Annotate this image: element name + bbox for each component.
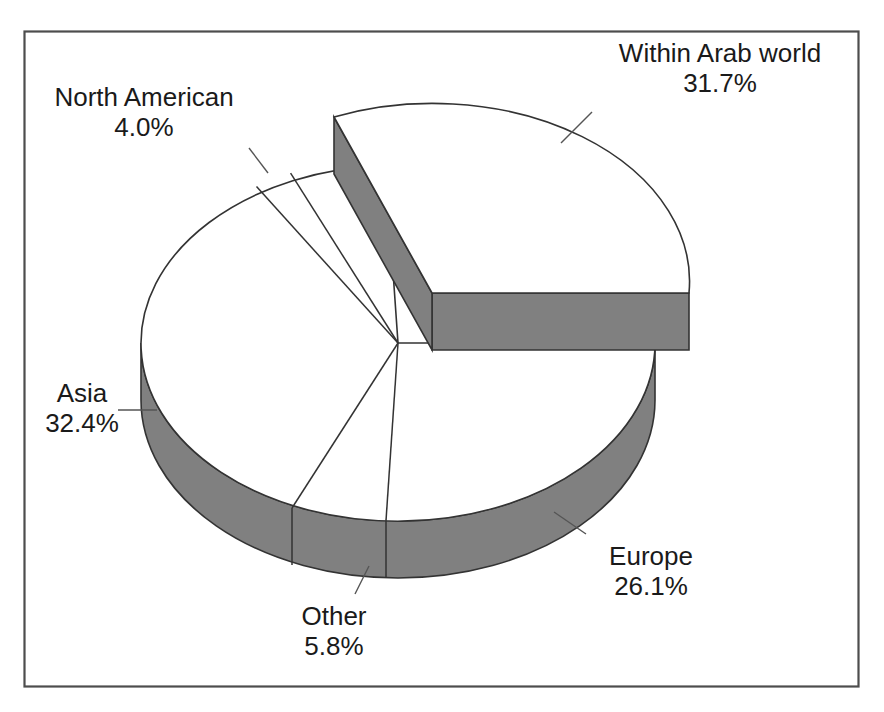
slice-label-other: Other 5.8% bbox=[272, 601, 396, 661]
slice-label-europe-name: Europe bbox=[582, 541, 720, 571]
slice-label-north-american: North American 4.0% bbox=[26, 82, 262, 142]
slice-label-north-american-value: 4.0% bbox=[26, 112, 262, 142]
slice-label-within-arab-world: Within Arab world 31.7% bbox=[586, 38, 854, 98]
slice-label-europe-value: 26.1% bbox=[582, 571, 720, 601]
slice-label-asia: Asia 32.4% bbox=[20, 378, 144, 438]
slice-label-asia-name: Asia bbox=[20, 378, 144, 408]
slice-label-within-arab-world-name: Within Arab world bbox=[586, 38, 854, 68]
pie-chart-figure: Within Arab world 31.7% North American 4… bbox=[0, 0, 884, 712]
slice-label-asia-value: 32.4% bbox=[20, 408, 144, 438]
slice-label-other-name: Other bbox=[272, 601, 396, 631]
slice-label-europe: Europe 26.1% bbox=[582, 541, 720, 601]
exploded-slice-side-right bbox=[432, 293, 689, 350]
slice-label-north-american-name: North American bbox=[26, 82, 262, 112]
slice-label-other-value: 5.8% bbox=[272, 631, 396, 661]
slice-label-within-arab-world-value: 31.7% bbox=[586, 68, 854, 98]
